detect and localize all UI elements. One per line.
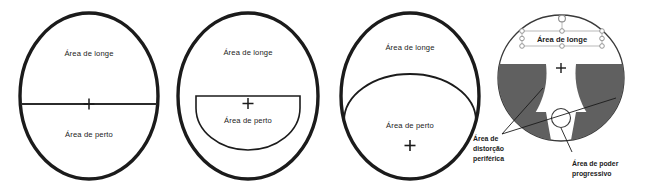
handle-nw: [520, 29, 525, 34]
lens-diagram-4: Área de longe Área de distorção periféri…: [468, 0, 660, 194]
lens-outline-1: [20, 13, 158, 179]
callout-progressive-line-1: Área de poder: [572, 159, 619, 168]
callout-peripheral-distortion: Área de distorção periférica: [473, 134, 504, 163]
callout-distortion-line-2: distorção: [473, 145, 504, 153]
handle-sw: [520, 44, 525, 49]
near-area-label-3: Área de perto: [386, 121, 434, 130]
near-area-label-1: Área de perto: [65, 130, 113, 139]
callout-distortion-line-1: Área de: [473, 134, 498, 142]
progressive-power-circle: [552, 109, 571, 128]
handle-se: [600, 44, 605, 49]
handle-ne: [600, 29, 605, 34]
near-area-label-2: Área de perto: [224, 116, 272, 125]
far-area-label-3: Área de longe: [385, 43, 434, 52]
lens-outline-3: [341, 13, 479, 179]
rotation-handle-icon[interactable]: [559, 15, 566, 22]
handle-e: [600, 36, 605, 41]
handle-s: [560, 44, 565, 49]
callout-progressive-line-2: progressivo: [572, 170, 611, 178]
far-area-label-1: Área de longe: [64, 49, 113, 58]
lens-diagram-2: Área de longe Área de perto: [163, 0, 338, 194]
callout-progressive-power: Área de poder progressivo: [572, 159, 619, 178]
far-area-label-4[interactable]: Área de longe: [537, 35, 587, 44]
lens-diagram-sheet: Área de longe Área de perto Área de long…: [0, 0, 660, 194]
far-area-label-2: Área de longe: [223, 48, 272, 57]
peripheral-distortion-bottom-right: [570, 112, 646, 146]
handle-n: [560, 29, 565, 34]
handle-w: [520, 36, 525, 41]
callout-distortion-line-3: periférica: [473, 155, 504, 163]
lens-diagram-1: Área de longe Área de perto: [0, 0, 175, 194]
